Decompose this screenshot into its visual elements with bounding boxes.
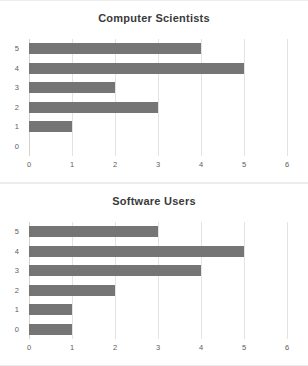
bar [29,304,72,315]
chart-title: Computer Scientists [0,11,308,25]
y-axis-tick-label: 2 [0,98,24,118]
x-axis-tick-label: 1 [70,342,74,354]
bar-series [29,39,287,156]
bar [29,43,201,54]
gridline [287,39,288,156]
x-axis-tick-label: 4 [199,159,203,171]
y-axis-tick-labels: 543210 [0,222,24,339]
bar [29,63,244,74]
bar [29,82,115,93]
bar-row [29,117,287,137]
x-axis-tick-label: 1 [70,159,74,171]
chart-panel-software-users: Software Users 543210 0123456 [0,183,308,366]
x-axis-tick-labels: 0123456 [29,159,287,171]
x-axis-tick-label: 2 [113,159,117,171]
x-axis-tick-label: 6 [285,342,289,354]
bar-row [29,242,287,262]
x-axis-tick-label: 6 [285,159,289,171]
bar-row [29,281,287,301]
x-axis-tick-label: 5 [242,159,246,171]
bar [29,246,244,257]
chart-stack: Computer Scientists 543210 0123456 Softw… [0,0,308,366]
y-axis-tick-label: 3 [0,78,24,98]
gridline [287,222,288,339]
y-axis-tick-label: 1 [0,300,24,320]
bar-row [29,300,287,320]
bar-row [29,59,287,79]
x-axis-tick-label: 0 [27,342,31,354]
chart-title: Software Users [0,194,308,208]
y-axis-tick-label: 5 [0,39,24,59]
y-axis-tick-label: 0 [0,137,24,157]
bar-row [29,98,287,118]
bar-row [29,261,287,281]
y-axis-tick-label: 4 [0,242,24,262]
bar [29,226,158,237]
x-axis-tick-labels: 0123456 [29,342,287,354]
y-axis-tick-label: 2 [0,281,24,301]
chart-panel-computer-scientists: Computer Scientists 543210 0123456 [0,0,308,183]
plot-area [29,222,287,339]
bar [29,102,158,113]
bar-row [29,78,287,98]
y-axis-tick-label: 5 [0,222,24,242]
x-axis-tick-label: 2 [113,342,117,354]
bar-series [29,222,287,339]
bar-row [29,320,287,340]
x-axis-tick-label: 0 [27,159,31,171]
bar-row [29,222,287,242]
bar-row [29,39,287,59]
x-axis-tick-label: 5 [242,342,246,354]
plot-area [29,39,287,156]
bar [29,285,115,296]
x-axis-tick-label: 3 [156,159,160,171]
y-axis-tick-label: 3 [0,261,24,281]
y-axis-tick-label: 1 [0,117,24,137]
y-axis-tick-label: 0 [0,320,24,340]
bar-row [29,137,287,157]
bar [29,265,201,276]
x-axis-tick-label: 4 [199,342,203,354]
bar [29,324,72,335]
bar [29,121,72,132]
y-axis-tick-label: 4 [0,59,24,79]
x-axis-tick-label: 3 [156,342,160,354]
y-axis-tick-labels: 543210 [0,39,24,156]
